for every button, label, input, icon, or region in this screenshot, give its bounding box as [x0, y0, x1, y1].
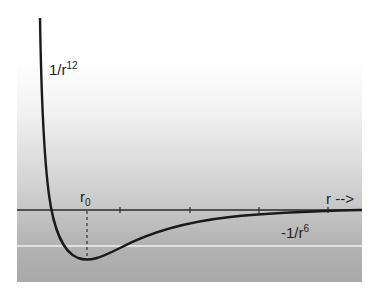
attractive-term-label: -1/r6	[281, 223, 309, 241]
r0-label: r0	[80, 188, 91, 208]
repulsive-term-label: 1/r12	[49, 60, 78, 78]
potential-diagram	[0, 0, 374, 296]
r-axis-label: r -->	[326, 190, 354, 207]
potential-curve	[40, 18, 362, 260]
